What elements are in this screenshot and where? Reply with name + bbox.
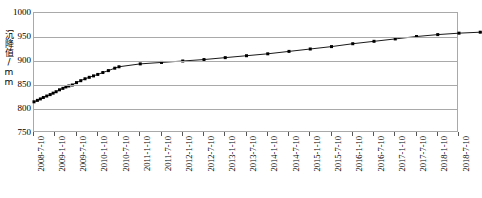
x-axis-tick-label: 2011-1-10 xyxy=(143,101,152,136)
y-axis-tick-label: 900 xyxy=(6,56,31,65)
data-point xyxy=(107,69,110,72)
x-axis-tick-label: 2011-7-10 xyxy=(164,101,173,136)
x-axis-tick-label: 2008-7-10 xyxy=(37,101,46,136)
settlement-line-chart: 沉降值/mm 1000950900850800750 2008-7-102009… xyxy=(0,0,482,198)
data-series xyxy=(34,13,459,133)
x-axis-tick-label: 2009-7-10 xyxy=(79,101,88,136)
data-point xyxy=(88,76,91,79)
data-point xyxy=(139,62,142,65)
data-point xyxy=(309,48,312,51)
x-axis-tick-label: 2017-7-10 xyxy=(419,101,428,136)
data-point xyxy=(288,50,291,53)
x-axis-tick-label: 2010-7-10 xyxy=(122,101,131,136)
data-point xyxy=(113,67,116,70)
data-point xyxy=(75,81,78,84)
x-axis-tick-label: 2016-1-10 xyxy=(355,101,364,136)
x-axis-tick-label: 2015-1-10 xyxy=(313,101,322,136)
x-axis-tick-label: 2013-7-10 xyxy=(249,101,258,136)
data-point xyxy=(52,92,55,95)
data-point xyxy=(45,95,48,98)
x-axis-tick-label: 2009-1-10 xyxy=(58,101,67,136)
x-axis-tick-label: 2018-1-10 xyxy=(440,101,449,136)
data-point xyxy=(118,65,121,68)
x-axis-tick-label: 2018-7-10 xyxy=(462,101,471,136)
gridline xyxy=(34,37,457,38)
data-point xyxy=(55,90,58,93)
data-point xyxy=(79,79,82,82)
data-point xyxy=(479,31,482,34)
x-axis-tick-labels: 2008-7-102009-1-102009-7-102010-1-102010… xyxy=(0,136,482,198)
plot-area xyxy=(33,12,458,132)
series-line xyxy=(34,29,482,102)
x-axis-tick-label: 2012-7-10 xyxy=(207,101,216,136)
y-axis-tick-label: 950 xyxy=(6,32,31,41)
x-axis-tick-label: 2013-1-10 xyxy=(228,101,237,136)
data-point xyxy=(58,88,61,91)
y-axis-tick-label: 1000 xyxy=(6,8,31,17)
y-axis-tick-label: 800 xyxy=(6,104,31,113)
x-axis-tick-label: 2016-7-10 xyxy=(377,101,386,136)
series-markers xyxy=(33,27,482,103)
data-point xyxy=(458,32,461,35)
x-axis-tick-label: 2015-7-10 xyxy=(334,101,343,136)
x-axis-tick-label: 2014-7-10 xyxy=(292,101,301,136)
data-point xyxy=(266,52,269,55)
x-axis-tick-label: 2010-1-10 xyxy=(100,101,109,136)
y-axis-tick-label: 850 xyxy=(6,80,31,89)
x-axis-tick-label: 2012-1-10 xyxy=(185,101,194,136)
data-point xyxy=(224,56,227,59)
data-point xyxy=(61,87,64,90)
gridline xyxy=(34,61,457,62)
data-point xyxy=(49,93,52,96)
data-point xyxy=(96,73,99,76)
data-point xyxy=(330,45,333,48)
gridline xyxy=(34,109,457,110)
x-axis-tick-label: 2017-1-10 xyxy=(398,101,407,136)
data-point xyxy=(101,71,104,74)
x-axis-tick-label: 2014-1-10 xyxy=(270,101,279,136)
data-point xyxy=(245,54,248,57)
data-point xyxy=(84,77,87,80)
data-point xyxy=(373,40,376,43)
data-point xyxy=(33,100,36,103)
data-point xyxy=(92,74,95,77)
data-point xyxy=(42,96,45,99)
data-point xyxy=(351,42,354,45)
data-point xyxy=(436,33,439,36)
gridline xyxy=(34,85,457,86)
